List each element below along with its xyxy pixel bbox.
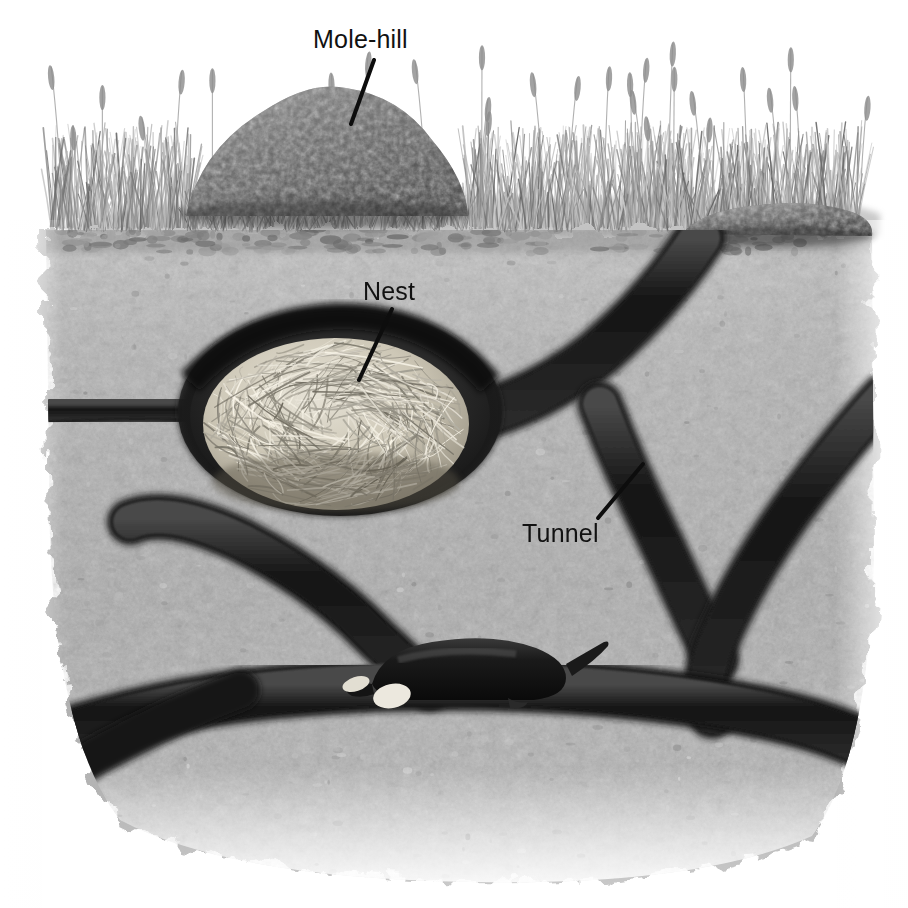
label-nest: Nest [363,279,415,304]
nest-straw-ball [203,338,469,512]
illustration-canvas: Mole-hill Nest Tunnel [0,0,908,908]
label-tunnel: Tunnel [522,521,599,546]
nest-chamber [178,308,502,516]
label-mole-hill: Mole-hill [313,27,408,52]
mole-hill-main [179,86,471,228]
mole-burrow-cross-section [0,0,908,908]
